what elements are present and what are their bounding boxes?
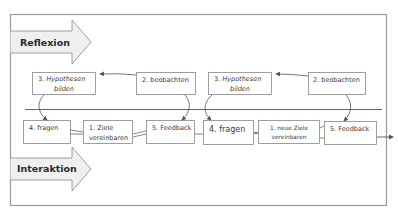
svg-text:3. Hypothesen: 3. Hypothesen (38, 75, 85, 83)
interaktion-lane-arrow: Interaktion (11, 147, 92, 191)
arrow-feedback-to-beobachten (344, 95, 351, 121)
arrow-hypothesen-to-fragen (205, 95, 212, 120)
link-ziele-feedback (133, 131, 146, 137)
reflexion-label: Reflexion (20, 37, 70, 48)
hypothesen-word: Hypothesen (46, 75, 85, 83)
hypothesen-bilden: bilden (230, 85, 250, 93)
hypothesen-number: 3. (38, 75, 46, 83)
hypothesen-bilden: bilden (54, 85, 74, 93)
feedback-label: 5. Feedback (330, 125, 369, 133)
reflection-interaction-diagram: Reflexion Interaktion 3. Hypothesen bild… (0, 0, 398, 215)
reflexion-lane-arrow: Reflexion (11, 20, 92, 64)
box-neue-ziele-vereinbaren (259, 121, 320, 144)
interaktion-label: Interaktion (17, 163, 77, 174)
arrow-beobachten-to-hypothesen (100, 74, 136, 75)
hypothesen-number: 3. (214, 75, 222, 83)
beobachten-label: 2. beobachten (313, 76, 360, 84)
feedback-label: 5. Feedback (152, 124, 191, 132)
fragen-label: 4. fragen (29, 124, 58, 132)
arrow-hypothesen-to-fragen (39, 95, 47, 120)
svg-text:3. Hypothesen: 3. Hypothesen (214, 75, 261, 83)
ziele-line1: 1. neue Ziele (270, 125, 308, 131)
cycle-2: 3. Hypothesen bilden 2. beobachten 4. fr… (204, 73, 394, 145)
hypothesen-word: Hypothesen (222, 75, 261, 83)
link-ziele-feedback (320, 126, 324, 138)
arrow-beobachten-to-hypothesen (276, 74, 308, 76)
cycle-1: 3. Hypothesen bilden 2. beobachten 4. fr… (24, 73, 204, 144)
ziele-line2: vereinbaren (89, 134, 128, 142)
arrow-feedback-to-beobachten (182, 95, 189, 120)
link-fragen-ziele (70, 130, 83, 134)
beobachten-label: 2. beobachten (142, 76, 189, 84)
ziele-line1: 1. Ziele (89, 124, 113, 132)
ziele-line2: vereinbaren (272, 134, 307, 140)
fragen-label: 4. fragen (209, 125, 245, 134)
